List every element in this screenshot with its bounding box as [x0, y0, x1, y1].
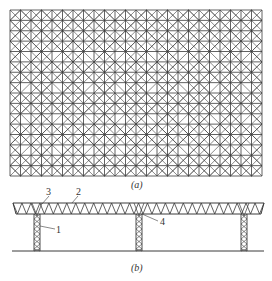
callout-2: 2 [76, 187, 81, 197]
truss-elevation [12, 196, 264, 251]
callout-4: 4 [160, 217, 165, 227]
caption-b: (b) [131, 263, 143, 273]
space-frame-plan [10, 10, 262, 176]
callout-3: 3 [46, 187, 51, 197]
caption-a: (a) [131, 180, 143, 190]
figure: (a) (b) 3 2 1 4 [0, 0, 272, 281]
diagram-canvas [0, 0, 272, 281]
callout-1: 1 [56, 225, 61, 235]
